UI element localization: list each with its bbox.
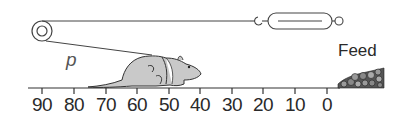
p-label: p [66, 50, 77, 69]
tick-label-30: 30 [222, 95, 242, 114]
diagram-canvas: p Feed 90 80 70 60 50 40 30 20 10 0 [0, 0, 408, 124]
tick-label-80: 80 [64, 95, 84, 114]
tick-label-0: 0 [322, 95, 332, 114]
spring-scale-icon [250, 13, 343, 29]
tick-label-60: 60 [127, 95, 147, 114]
tick-label-50: 50 [159, 95, 179, 114]
tick-label-70: 70 [96, 95, 116, 114]
feed-pile-icon [338, 68, 384, 88]
tick-label-40: 40 [190, 95, 210, 114]
pulley-icon [32, 21, 52, 41]
feed-label: Feed [338, 42, 377, 59]
tick-label-10: 10 [285, 95, 305, 114]
tick-label-20: 20 [253, 95, 273, 114]
tick-label-90: 90 [32, 95, 52, 114]
rat-icon [88, 56, 201, 88]
